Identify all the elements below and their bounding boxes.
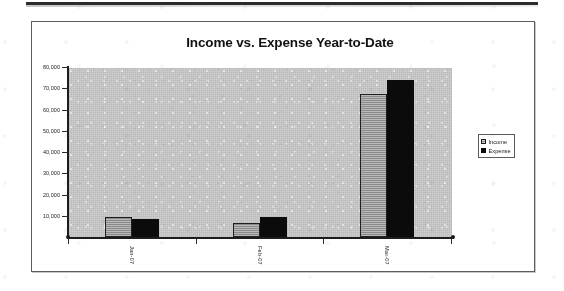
bar-expense-jan-07: [132, 219, 159, 237]
y-axis-tick: [62, 216, 68, 217]
y-axis-label-slot: 20,000: [28, 195, 60, 196]
y-axis-tick: [62, 67, 68, 68]
x-axis-tick: [451, 239, 452, 244]
y-axis-tick: [62, 110, 68, 111]
x-axis-tick: [323, 239, 324, 244]
x-axis-label: Mar-07: [384, 246, 390, 265]
legend-item-expense[interactable]: Expense: [481, 146, 511, 155]
y-axis-label-slot: 70,000: [28, 88, 60, 89]
bar-expense-feb-07: [260, 217, 287, 237]
y-axis-label: 80,000: [30, 64, 60, 70]
y-axis-label-slot: 50,000: [28, 131, 60, 132]
y-axis-label-slot: 30,000: [28, 173, 60, 174]
y-axis-label-slot: 10,000: [28, 216, 60, 217]
bar-income-mar-07: [360, 94, 387, 237]
y-axis-label-slot: 40,000: [28, 152, 60, 153]
legend-label-income: Income: [489, 139, 508, 145]
bar-income-feb-07: [233, 223, 260, 237]
y-axis-label: 50,000: [30, 128, 60, 134]
y-axis-label: 20,000: [30, 192, 60, 198]
y-axis-label: 40,000: [30, 149, 60, 155]
y-axis-tick: [62, 152, 68, 153]
income-swatch-icon: [481, 139, 486, 144]
y-axis-tick: [62, 173, 68, 174]
y-axis-label: 60,000: [30, 107, 60, 113]
x-axis-tick: [68, 239, 69, 244]
x-axis-line: [67, 237, 454, 239]
x-axis-label: Feb-07: [257, 246, 263, 265]
y-axis-tick: [62, 88, 68, 89]
legend-item-income[interactable]: Income: [481, 137, 511, 146]
y-axis-label-slot: 60,000: [28, 110, 60, 111]
expense-swatch-icon: [481, 148, 486, 153]
x-axis-tick: [196, 239, 197, 244]
scanned-page: Income vs. Expense Year-to-Date 10,00020…: [0, 0, 564, 291]
bar-income-jan-07: [105, 217, 132, 237]
y-axis-tick: [62, 131, 68, 132]
y-axis-tick: [62, 195, 68, 196]
legend-label-expense: Expense: [489, 148, 511, 154]
y-axis-label-slot: 80,000: [28, 67, 60, 68]
y-axis-label: 10,000: [30, 213, 60, 219]
y-axis-label: 70,000: [30, 85, 60, 91]
page-top-rule-shadow: [26, 5, 538, 7]
chart-title: Income vs. Expense Year-to-Date: [32, 35, 534, 50]
chart-legend: Income Expense: [478, 134, 515, 158]
y-axis-label: 30,000: [30, 170, 60, 176]
x-axis-label: Jan-07: [129, 246, 135, 264]
bar-expense-mar-07: [387, 80, 414, 237]
